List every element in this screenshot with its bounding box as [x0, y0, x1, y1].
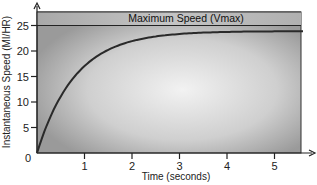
x-tick-label: 2 — [129, 160, 135, 172]
vmax-label: Maximum Speed (Vmax) — [128, 12, 244, 24]
x-tick-label: 4 — [224, 160, 230, 172]
y-tick-label: 10 — [17, 96, 29, 108]
x-tick-label: 5 — [271, 160, 277, 172]
y-axis-title: Instantaneous Speed (MI/HR) — [1, 16, 12, 148]
y-tick-label: 20 — [17, 45, 29, 57]
x-tick-label: 1 — [81, 160, 87, 172]
speed-time-chart: Maximum Speed (Vmax) 0510152025 12345 Ti… — [0, 0, 317, 185]
y-tick-label: 0 — [25, 152, 31, 164]
x-axis-title: Time (seconds) — [142, 171, 211, 182]
y-tick-label: 15 — [17, 71, 29, 83]
plot-area — [37, 12, 301, 153]
x-ticks: 12345 — [81, 153, 277, 172]
y-tick-label: 25 — [17, 20, 29, 32]
y-tick-label: 5 — [23, 122, 29, 134]
y-ticks: 0510152025 — [17, 20, 37, 165]
